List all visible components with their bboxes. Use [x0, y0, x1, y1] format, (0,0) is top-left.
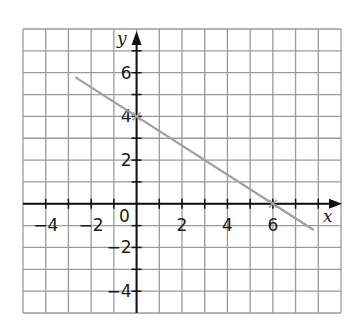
x-tick-label: 4 [222, 215, 233, 235]
y-tick-label: 6 [121, 63, 132, 83]
grid [23, 29, 341, 313]
data-line [75, 77, 314, 230]
x-tick-label: −4 [33, 215, 58, 235]
y-tick-label: 2 [121, 150, 132, 170]
data-series [75, 77, 314, 230]
x-tick-label: 2 [177, 215, 188, 235]
origin-label: 0 [119, 206, 130, 226]
x-tick-label: 6 [267, 215, 278, 235]
x-tick-label: −2 [79, 215, 104, 235]
y-tick-label: −2 [107, 237, 132, 257]
y-axis-label: y [116, 28, 127, 48]
line-graph: −4−2246−4−2246 x y 0 [0, 0, 351, 331]
x-axis-label: x [323, 206, 333, 226]
y-axis-arrow-icon [132, 31, 142, 45]
y-tick-label: −4 [107, 281, 132, 301]
